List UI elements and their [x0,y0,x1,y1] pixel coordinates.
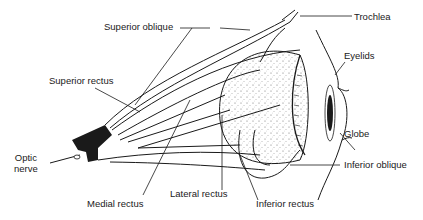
optic-nerve-shape [50,125,112,163]
eye-muscle-diagram: Superior oblique Trochlea Eyelids Superi… [0,0,423,220]
label-inferior-rectus: Inferior rectus [256,198,314,209]
label-superior-oblique: Superior oblique [104,21,173,32]
globe-shape [220,51,335,163]
label-lateral-rectus: Lateral rectus [170,188,228,199]
label-optic-nerve: Optic nerve [14,152,38,174]
label-eyelids: Eyelids [344,50,375,61]
label-superior-rectus: Superior rectus [49,75,113,86]
label-globe: Globe [344,128,369,139]
label-inferior-oblique: Inferior oblique [344,159,407,170]
label-medial-rectus: Medial rectus [87,198,144,209]
eye-muscle-illustration [0,0,423,220]
label-trochlea: Trochlea [354,11,391,22]
